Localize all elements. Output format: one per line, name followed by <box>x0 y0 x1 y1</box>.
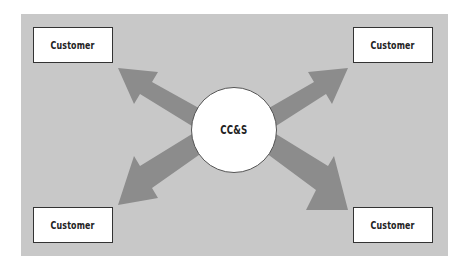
ccs-hub-circle: CC&S <box>191 87 277 173</box>
customer-label: Customer <box>51 219 95 232</box>
customer-label: Customer <box>371 39 415 52</box>
customer-node-bottom-right: Customer <box>353 207 433 243</box>
customer-label: Customer <box>371 219 415 232</box>
customer-node-bottom-left: Customer <box>33 207 113 243</box>
hub-label: CC&S <box>220 123 247 137</box>
customer-node-top-right: Customer <box>353 27 433 63</box>
arrow-to-bottom-right-customer <box>262 134 348 210</box>
customer-label: Customer <box>51 39 95 52</box>
customer-node-top-left: Customer <box>33 27 113 63</box>
